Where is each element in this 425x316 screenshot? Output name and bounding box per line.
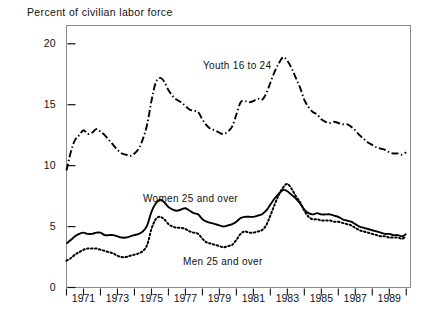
data-series-group (67, 57, 407, 261)
y-tick-label: 0 (34, 281, 56, 293)
y-tick-label: 10 (34, 159, 56, 171)
series-label-men: Men 25 and over (183, 256, 263, 267)
series-label-youth: Youth 16 to 24 (203, 60, 271, 71)
unemployment-rate-chart: Percent of civilian labor force 05101520… (0, 0, 425, 316)
y-tick-label: 20 (34, 37, 56, 49)
y-tick-label: 15 (34, 98, 56, 110)
x-tick-label: 1989 (369, 292, 409, 304)
y-tick-label: 5 (34, 220, 56, 232)
series-label-women: Women 25 and over (143, 193, 238, 204)
series-line-youth-16-to-24 (67, 57, 407, 170)
y-tick-marks (68, 44, 76, 288)
plot-area (0, 0, 425, 316)
